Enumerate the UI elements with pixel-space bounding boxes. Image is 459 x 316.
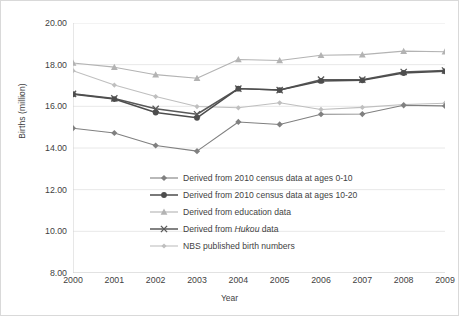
- legend-item[interactable]: Derived from 2010 census data at ages 10…: [149, 186, 449, 203]
- data-point-marker-small-diamond: [153, 94, 158, 99]
- legend-item[interactable]: Derived from 2010 census data at ages 0-…: [149, 169, 449, 186]
- data-point-marker-small-diamond: [194, 104, 199, 109]
- data-point-marker-diamond: [161, 174, 167, 180]
- x-axis-tick-label: 2007: [353, 275, 373, 285]
- legend-item-label: Derived from education data: [183, 207, 291, 217]
- y-axis-tick-label: 16.00: [21, 101, 67, 111]
- x-axis-tick-label: 2009: [435, 275, 455, 285]
- data-point-marker-circle: [277, 87, 283, 93]
- series-line: [73, 68, 445, 120]
- data-point-marker-small-diamond: [360, 105, 365, 110]
- legend-marker-small-diamond-icon: [149, 239, 179, 253]
- legend-item[interactable]: Derived from education data: [149, 203, 449, 220]
- legend-marker-diamond-icon: [149, 171, 179, 185]
- legend-item-label: Derived from 2010 census data at ages 10…: [183, 190, 357, 200]
- y-axis-tick-labels: 20.0018.0016.0014.0012.0010.008.00: [1, 1, 67, 315]
- data-point-marker-small-diamond: [277, 100, 282, 105]
- y-axis-tick-label: 10.00: [21, 226, 67, 236]
- data-point-marker-diamond: [359, 111, 365, 117]
- y-axis-tick-label: 12.00: [21, 185, 67, 195]
- data-point-marker-circle: [359, 77, 365, 83]
- chart-legend: Derived from 2010 census data at ages 0-…: [149, 169, 449, 254]
- x-axis-tick-label: 2000: [63, 275, 83, 285]
- series-line: [73, 102, 445, 154]
- x-axis-tick-labels: 2000200120022003200420052006200720082009: [73, 275, 445, 291]
- chart-figure: Births (million) Year 20.0018.0016.0014.…: [0, 0, 459, 316]
- data-point-marker-circle: [194, 115, 200, 121]
- x-axis-tick-label: 2001: [105, 275, 125, 285]
- legend-marker-triangle-icon: [149, 205, 179, 219]
- legend-item[interactable]: NBS published birth numbers: [149, 237, 449, 254]
- data-point-marker-circle: [318, 78, 324, 84]
- data-point-marker-circle: [235, 86, 241, 92]
- data-point-marker-small-diamond: [161, 243, 166, 248]
- y-axis-tick-label: 14.00: [21, 143, 67, 153]
- x-axis-tick-label: 2008: [394, 275, 414, 285]
- data-point-marker-diamond: [318, 111, 324, 117]
- x-axis-title: Year: [1, 293, 458, 303]
- x-axis-tick-label: 2006: [311, 275, 331, 285]
- x-axis-tick-label: 2003: [187, 275, 207, 285]
- legend-marker-circle-icon: [149, 188, 179, 202]
- legend-item-label: Derived from Hukou data: [183, 224, 279, 234]
- data-point-marker-small-diamond: [73, 68, 76, 73]
- data-point-marker-circle: [401, 70, 407, 76]
- y-axis-tick-label: 8.00: [21, 268, 67, 278]
- legend-item-label: Derived from 2010 census data at ages 0-…: [183, 173, 353, 183]
- y-axis-tick-label: 20.00: [21, 18, 67, 28]
- x-axis-tick-label: 2002: [146, 275, 166, 285]
- legend-item[interactable]: Derived from Hukou data: [149, 220, 449, 237]
- data-point-marker-circle: [161, 192, 167, 198]
- y-axis-tick-label: 18.00: [21, 60, 67, 70]
- data-point-marker-circle: [111, 96, 117, 102]
- data-point-marker-diamond: [401, 102, 407, 108]
- legend-marker-x-icon: [149, 222, 179, 236]
- data-point-marker-diamond: [73, 125, 76, 131]
- data-point-marker-circle: [153, 110, 159, 116]
- x-axis-tick-label: 2005: [270, 275, 290, 285]
- x-axis-tick-label: 2004: [229, 275, 249, 285]
- data-point-marker-diamond: [111, 130, 117, 136]
- data-point-marker-small-diamond: [112, 82, 117, 87]
- legend-item-label: NBS published birth numbers: [183, 241, 295, 251]
- data-point-marker-diamond: [277, 121, 283, 127]
